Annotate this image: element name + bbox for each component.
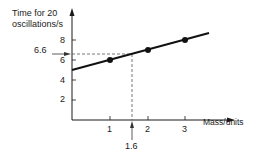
x-axis-arrow-icon: [227, 118, 235, 123]
y-axis: [70, 8, 77, 120]
best-fit-line: [72, 33, 209, 70]
y-axis-arrow-icon: [70, 8, 75, 16]
x-axis: [72, 116, 235, 123]
data-point: [182, 37, 188, 43]
chart-plot: [0, 0, 259, 156]
data-point: [145, 47, 151, 53]
arrow-up-icon: [130, 121, 134, 128]
data-point: [107, 57, 113, 63]
arrow-right-icon: [64, 52, 71, 56]
